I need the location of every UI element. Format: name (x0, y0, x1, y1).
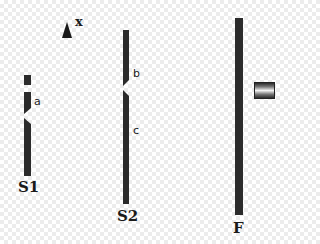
diagram-svg (0, 0, 290, 244)
screen-f (235, 18, 243, 215)
double-slit-diagram: x a b c S1 S2 F (0, 0, 290, 244)
slit-b-label: b (133, 67, 140, 80)
screen-s1 (24, 75, 31, 176)
screen-s2 (123, 30, 129, 204)
arrow-up-icon (62, 22, 72, 38)
screen-s1-label: S1 (18, 178, 39, 196)
axis-x-label: x (75, 14, 83, 29)
screen-s2-label: S2 (117, 207, 138, 225)
slit-a-label: a (34, 95, 41, 108)
screen-f-label: F (233, 219, 244, 237)
detector-icon (254, 82, 275, 99)
slit-c-label: c (133, 124, 139, 137)
